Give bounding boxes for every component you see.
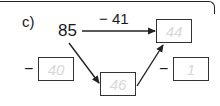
right-minus-sign: − xyxy=(159,61,168,77)
left-minus-sign: − xyxy=(24,61,33,77)
answer-value: 46 xyxy=(110,76,127,93)
answer-box-middle[interactable]: 46 xyxy=(100,72,136,96)
start-number: 85 xyxy=(58,23,77,39)
answer-box-left-operand[interactable]: 40 xyxy=(38,57,74,81)
answer-box-top-result[interactable]: 44 xyxy=(156,19,192,43)
answer-value: 44 xyxy=(166,23,183,40)
answer-value: 40 xyxy=(48,61,65,78)
answer-value: 1 xyxy=(187,61,195,78)
answer-box-right-operand[interactable]: 1 xyxy=(173,57,209,81)
part-label: c) xyxy=(22,14,35,30)
top-operation-label: − 41 xyxy=(99,11,129,27)
